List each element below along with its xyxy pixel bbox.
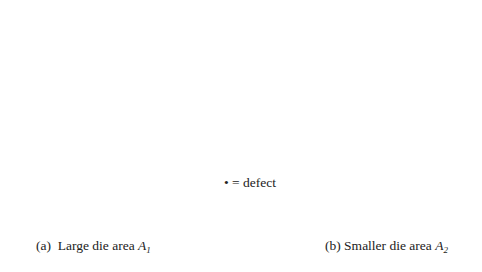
defect-dot-icon: •: [224, 175, 229, 190]
caption-a-sub: 1: [146, 245, 151, 255]
caption-b-sub: 2: [443, 245, 448, 255]
caption-b: (b) Smaller die area A2: [325, 238, 448, 255]
caption-a: (a) Large die area A1: [36, 238, 151, 255]
caption-a-text: (a) Large die area: [36, 238, 138, 253]
caption-b-text: (b) Smaller die area: [325, 238, 435, 253]
defect-legend: • = defect: [224, 175, 276, 191]
wafer-diagram: [0, 0, 482, 272]
defect-legend-text: = defect: [232, 175, 276, 190]
